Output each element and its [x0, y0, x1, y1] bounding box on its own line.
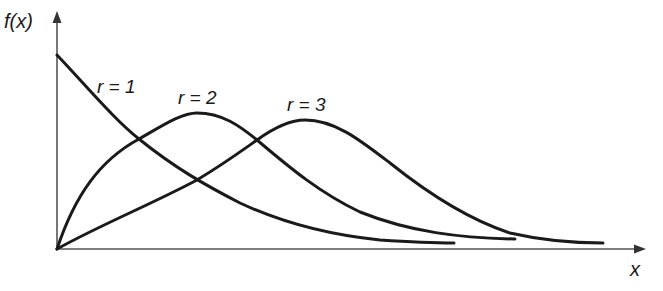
label-r1: r = 1: [97, 76, 136, 97]
label-r2: r = 2: [178, 87, 217, 108]
curves: [57, 55, 603, 249]
y-axis-arrow-icon: [53, 11, 62, 23]
y-axis-label: f(x): [4, 10, 33, 32]
curve-r2: [57, 113, 515, 249]
label-r3: r = 3: [287, 94, 326, 115]
chart: f(x) x r = 1 r = 2 r = 3: [0, 0, 663, 291]
x-axis-arrow-icon: [634, 245, 646, 254]
x-axis-label: x: [629, 258, 641, 280]
